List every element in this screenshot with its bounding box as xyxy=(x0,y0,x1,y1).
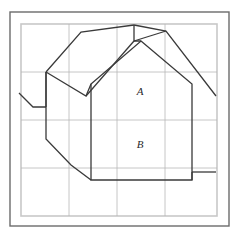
figure-container: A B xyxy=(0,0,239,238)
canvas-background xyxy=(0,0,239,238)
region-label-b: B xyxy=(137,138,144,150)
region-label-a: A xyxy=(136,85,144,97)
figure-svg: A B xyxy=(0,0,239,238)
